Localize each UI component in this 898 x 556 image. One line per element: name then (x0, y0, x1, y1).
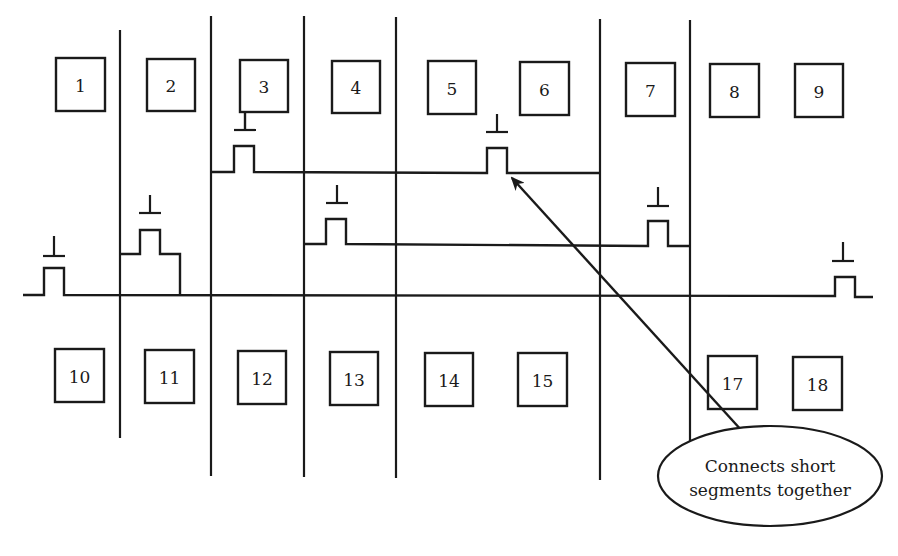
bottom-logic-cell-row: 1011121314151718 (55, 349, 842, 410)
logic-cell-4: 4 (332, 61, 380, 113)
logic-cell-14: 14 (425, 353, 473, 406)
main-wire (23, 268, 873, 297)
cell-label: 8 (729, 82, 740, 102)
logic-cell-7: 7 (626, 63, 675, 116)
cell-label: 9 (814, 82, 825, 102)
callout-text-line2: segments together (689, 480, 852, 500)
segmented-routing-diagram: 123456789 1011121314151718 Connects shor… (0, 0, 898, 556)
gate-symbol-icon (139, 195, 161, 213)
cell-label: 15 (532, 371, 554, 391)
cell-label: 12 (251, 369, 273, 389)
logic-cell-18: 18 (793, 357, 842, 410)
logic-cell-1: 1 (56, 58, 105, 111)
gate-symbol-icon (43, 236, 65, 256)
cell-label: 10 (69, 367, 91, 387)
gate-symbol-icon (486, 114, 508, 132)
logic-cell-15: 15 (518, 353, 567, 406)
upper-segment-wire (211, 146, 600, 173)
cell-label: 13 (343, 370, 365, 390)
cell-label: 14 (438, 371, 460, 391)
cell-label: 17 (722, 374, 744, 394)
callout-bubble: Connects short segments together (658, 426, 882, 526)
callout-text-line1: Connects short (705, 456, 836, 476)
logic-cell-11: 11 (145, 350, 194, 403)
connection-gate-symbols (43, 112, 854, 261)
gate-symbol-icon (326, 185, 348, 203)
cell-label: 1 (75, 76, 86, 96)
middle-segment-wire (304, 219, 690, 246)
horizontal-wire-segments (23, 146, 873, 297)
logic-cell-2: 2 (147, 59, 195, 111)
cell-label: 6 (539, 80, 550, 100)
cell-label: 3 (259, 77, 270, 97)
vertical-routing-tracks (120, 16, 690, 480)
column2-segment-wire (120, 230, 180, 295)
cell-label: 18 (807, 375, 829, 395)
gate-symbol-icon (832, 242, 854, 261)
logic-cell-13: 13 (330, 352, 378, 405)
cell-label: 7 (645, 81, 656, 101)
logic-cell-12: 12 (238, 351, 286, 404)
logic-cell-5: 5 (428, 61, 476, 114)
cell-label: 4 (351, 78, 362, 98)
logic-cell-8: 8 (710, 64, 759, 117)
gate-symbol-icon (647, 187, 669, 206)
logic-cell-6: 6 (520, 62, 569, 115)
logic-cell-9: 9 (795, 64, 843, 117)
logic-cell-3: 3 (240, 60, 288, 112)
callout-ellipse (658, 426, 882, 526)
cell-label: 2 (166, 76, 177, 96)
logic-cell-10: 10 (55, 349, 104, 402)
top-logic-cell-row: 123456789 (56, 58, 843, 117)
cell-label: 5 (447, 79, 458, 99)
cell-label: 11 (159, 368, 181, 388)
